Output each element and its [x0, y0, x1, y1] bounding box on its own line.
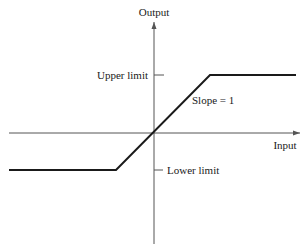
- saturation-curve: [9, 75, 296, 170]
- slope-label: Slope = 1: [192, 94, 234, 106]
- x-axis-label: Input: [273, 139, 296, 151]
- lower-limit-label: Lower limit: [167, 164, 219, 176]
- saturation-diagram: Output Input Upper limit Lower limit Slo…: [0, 0, 306, 250]
- y-axis-label: Output: [139, 6, 170, 18]
- upper-limit-label: Upper limit: [97, 69, 148, 81]
